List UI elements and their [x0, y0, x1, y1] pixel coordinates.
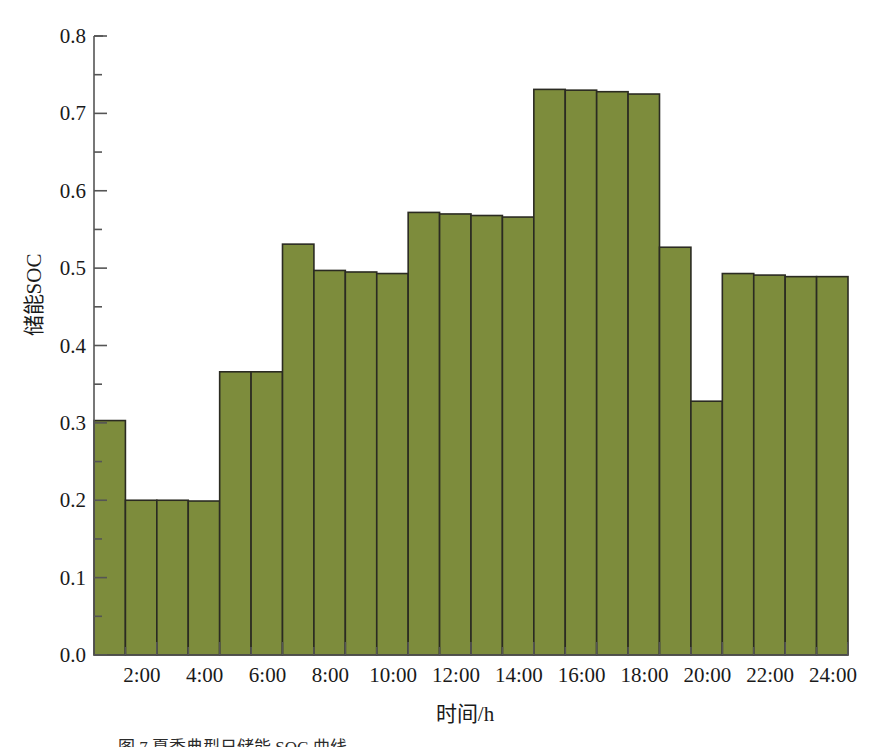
- y-tick-label: 0.2: [32, 490, 86, 511]
- y-tick-label: 0.8: [32, 26, 86, 47]
- bar: [94, 421, 125, 655]
- bar: [345, 272, 376, 655]
- y-axis-tick-labels: 0.00.10.20.30.40.50.60.70.8: [24, 0, 86, 747]
- bar: [660, 247, 691, 655]
- bar: [597, 92, 628, 655]
- bar: [502, 217, 533, 655]
- bar: [722, 274, 753, 655]
- x-axis-title-text: 时间/h: [378, 702, 494, 726]
- x-tick-label: 24:00: [788, 665, 872, 686]
- figure-storage-soc-bar-chart: 储能SOC 0.00.10.20.30.40.50.60.70.8 2:004:…: [0, 0, 872, 747]
- bar: [691, 401, 722, 655]
- bar: [471, 216, 502, 655]
- bar: [157, 500, 188, 655]
- y-tick-label: 0.6: [32, 181, 86, 202]
- bars-group: [94, 89, 848, 655]
- y-tick-label: 0.1: [32, 568, 86, 589]
- bar: [565, 90, 596, 655]
- bar: [534, 89, 565, 655]
- bar: [754, 275, 785, 655]
- x-axis-title: 时间/h: [0, 697, 872, 727]
- figure-caption: 图 7 夏季典型日储能 SOC 曲线: [0, 733, 872, 747]
- x-axis-tick-labels: 2:004:006:008:0010:0012:0014:0016:0018:0…: [0, 665, 872, 699]
- chart-canvas: [94, 36, 848, 655]
- y-tick-label: 0.4: [32, 336, 86, 357]
- y-tick-label: 0.5: [32, 258, 86, 279]
- bar: [125, 500, 156, 655]
- bar: [251, 372, 282, 655]
- bar: [628, 94, 659, 655]
- plot-area: [94, 36, 848, 655]
- bar: [440, 214, 471, 655]
- bar: [785, 277, 816, 655]
- y-tick-label: 0.0: [32, 645, 86, 666]
- y-tick-label: 0.3: [32, 413, 86, 434]
- bar: [283, 244, 314, 655]
- figure-caption-text: 图 7 夏季典型日储能 SOC 曲线: [0, 738, 347, 747]
- bar: [314, 270, 345, 655]
- bar: [188, 501, 219, 655]
- bar: [220, 372, 251, 655]
- bar: [408, 212, 439, 655]
- bar: [377, 274, 408, 655]
- y-tick-label: 0.7: [32, 103, 86, 124]
- bar: [817, 277, 848, 655]
